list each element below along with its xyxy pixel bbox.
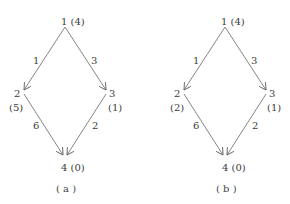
- edge-3-4: [227, 94, 266, 155]
- node-4-label: 4 (0): [61, 162, 85, 174]
- node-3-label: 3: [109, 88, 115, 100]
- node-2-value: (2): [170, 102, 184, 114]
- edge-1-2-weight: 1: [193, 55, 199, 67]
- edge-1-3-weight: 3: [251, 55, 257, 67]
- diagram-b: 1 (4) 2 (2) 3 (1) 4 (0) 1 3 6 2 ( b ): [145, 0, 290, 204]
- edge-1-3: [225, 27, 266, 90]
- node-2-label: 2: [174, 88, 180, 100]
- node-1-label: 1 (4): [61, 16, 85, 28]
- edge-3-4: [67, 94, 106, 155]
- edge-3-4-weight: 2: [252, 120, 258, 132]
- node-2-label: 2: [14, 88, 20, 100]
- node-3-value: (1): [267, 102, 281, 114]
- node-4-label: 4 (0): [222, 162, 246, 174]
- caption-a: ( a ): [56, 183, 76, 195]
- node-3-label: 3: [269, 88, 275, 100]
- edge-1-2-weight: 1: [33, 55, 39, 67]
- edge-2-4-weight: 6: [193, 120, 199, 132]
- edge-1-3: [65, 27, 106, 90]
- edge-2-4-weight: 6: [33, 120, 39, 132]
- caption-b: ( b ): [216, 183, 237, 195]
- node-1-label: 1 (4): [221, 16, 245, 28]
- edge-2-4: [24, 94, 63, 155]
- edge-1-2: [184, 27, 225, 90]
- edge-1-3-weight: 3: [91, 55, 97, 67]
- edge-2-4: [184, 94, 223, 155]
- edge-3-4-weight: 2: [92, 120, 98, 132]
- edge-1-2: [24, 27, 65, 90]
- node-3-value: (1): [108, 102, 122, 114]
- diagram-a: 1 (4) 2 (5) 3 (1) 4 (0) 1 3 6 2 ( a ): [0, 0, 145, 204]
- node-2-value: (5): [9, 102, 23, 114]
